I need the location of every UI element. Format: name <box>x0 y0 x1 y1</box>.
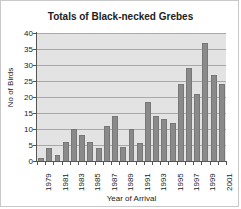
bar <box>87 142 93 161</box>
bar <box>71 129 77 161</box>
x-tick-label: 1999 <box>208 173 217 191</box>
plot-area <box>37 33 226 161</box>
bar <box>194 94 200 161</box>
bar <box>79 135 85 161</box>
bar <box>104 126 110 161</box>
x-axis-tick-labels: 1979198119831985198719891991199319951997… <box>37 165 226 193</box>
gridline <box>37 49 226 50</box>
x-tick-label: 1993 <box>159 173 168 191</box>
y-tick-label: 0 <box>7 157 33 166</box>
x-tick-label: 1987 <box>110 173 119 191</box>
y-tick-mark <box>33 97 36 98</box>
x-tick-label: 1991 <box>143 173 152 191</box>
bar <box>145 102 151 161</box>
gridline <box>37 65 226 66</box>
gridline <box>37 81 226 82</box>
bar <box>112 116 118 161</box>
y-tick-mark <box>33 65 36 66</box>
x-tick-label: 1995 <box>176 173 185 191</box>
y-tick-label: 40 <box>7 29 33 38</box>
bar <box>63 142 69 161</box>
bar <box>211 75 217 161</box>
y-tick-mark <box>33 113 36 114</box>
bar <box>137 143 143 161</box>
x-tick-label: 1979 <box>44 173 53 191</box>
bar <box>129 129 135 161</box>
x-tick-label: 1997 <box>192 173 201 191</box>
chart-container: Totals of Black-necked Grebes 0510152025… <box>0 0 239 207</box>
x-tick-mark <box>226 161 227 165</box>
bar <box>96 148 102 161</box>
x-tick-label: 2001 <box>225 173 234 191</box>
y-tick-mark <box>33 33 36 34</box>
chart-title: Totals of Black-necked Grebes <box>1 11 240 22</box>
y-tick-mark <box>33 81 36 82</box>
y-tick-label: 10 <box>7 125 33 134</box>
y-axis-title: No of Birds <box>6 58 15 118</box>
bar <box>186 68 192 161</box>
bar <box>178 84 184 161</box>
gridline <box>37 33 226 34</box>
y-tick-label: 35 <box>7 45 33 54</box>
x-tick-label: 1983 <box>77 173 86 191</box>
bar <box>46 148 52 161</box>
bar <box>153 116 159 161</box>
bar <box>120 147 126 161</box>
bar <box>202 43 208 161</box>
x-tick-label: 1985 <box>93 173 102 191</box>
y-tick-label: 5 <box>7 141 33 150</box>
bar <box>219 84 225 161</box>
x-tick-label: 1981 <box>61 173 70 191</box>
bar <box>161 119 167 161</box>
bar <box>170 123 176 161</box>
x-axis-title: Year of Arrival <box>37 194 226 203</box>
y-tick-mark <box>33 145 36 146</box>
y-tick-mark <box>33 49 36 50</box>
y-tick-mark <box>33 129 36 130</box>
x-tick-label: 1989 <box>126 173 135 191</box>
y-tick-mark <box>33 161 36 162</box>
